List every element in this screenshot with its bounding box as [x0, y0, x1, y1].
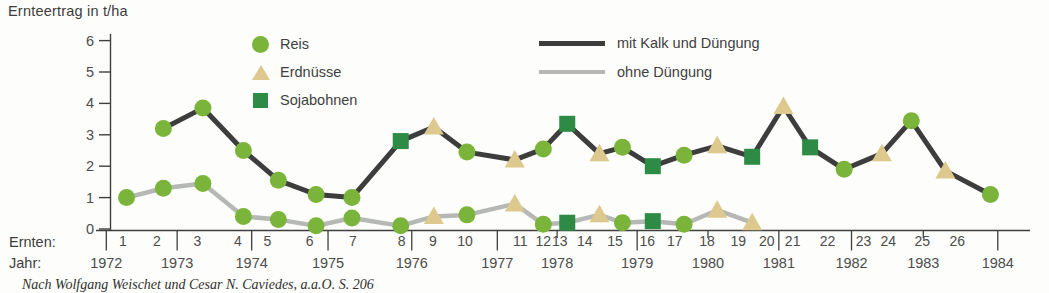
harvest-number: 4 [234, 233, 242, 249]
marker-reis [836, 161, 853, 178]
harvest-number: 9 [429, 233, 437, 249]
gray-line-icon [539, 70, 605, 74]
marker-reis [458, 144, 475, 161]
marker-erdnuesse [589, 205, 609, 223]
marker-reis [308, 186, 325, 203]
marker-erdnuesse [773, 97, 793, 115]
source-citation: Nach Wolfgang Weischet und Cesar N. Cavi… [22, 277, 374, 293]
marker-sojabohnen [559, 116, 575, 132]
marker-reis [982, 186, 999, 203]
year-row-caption: Jahr: [9, 255, 41, 271]
year-label: 1973 [161, 255, 193, 271]
y-tick-label: 1 [86, 190, 94, 206]
marker-reis [270, 172, 287, 189]
marker-reis [118, 189, 135, 206]
marker-reis [614, 214, 631, 231]
soybean-square-icon [252, 93, 269, 108]
marker-erdnuesse [424, 117, 444, 135]
legend-item-erdnuesse: Erdnüsse [252, 63, 357, 81]
marker-reis [194, 100, 211, 117]
harvest-number: 3 [194, 233, 202, 249]
legend-item-mit-kalk: mit Kalk und Düngung [539, 35, 760, 51]
marker-sojabohnen [744, 149, 760, 165]
year-label: 1979 [621, 255, 653, 271]
year-label: 1983 [907, 255, 939, 271]
harvest-number: 6 [306, 233, 314, 249]
year-label: 1978 [541, 255, 573, 271]
legend-label: Reis [280, 36, 309, 52]
harvest-number: 18 [699, 233, 715, 249]
marker-erdnuesse [505, 194, 525, 212]
harvest-number: 25 [915, 233, 931, 249]
year-label: 1984 [982, 255, 1014, 271]
year-label: 1972 [90, 255, 122, 271]
marker-reis [676, 216, 693, 233]
harvest-number: 19 [731, 233, 747, 249]
harvest-number: 2 [153, 233, 161, 249]
series-line-mit-kalk [163, 107, 990, 198]
harvest-number: 16 [639, 233, 655, 249]
harvest-number: 26 [950, 233, 966, 249]
harvest-number: 17 [667, 233, 683, 249]
marker-reis [535, 216, 552, 233]
legend-item-sojabohnen: Sojabohnen [252, 91, 357, 109]
marker-reis [155, 180, 172, 197]
harvest-number: 13 [552, 233, 568, 249]
legend-label: ohne Düngung [617, 64, 712, 80]
marker-erdnuesse [707, 136, 727, 154]
marker-reis [676, 147, 693, 164]
harvest-number: 5 [263, 233, 271, 249]
marker-sojabohnen [645, 213, 661, 229]
year-label: 1981 [763, 255, 795, 271]
y-tick-label: 4 [86, 95, 94, 111]
harvest-number: 10 [457, 233, 473, 249]
harvest-number: 22 [820, 233, 836, 249]
marker-sojabohnen [559, 215, 575, 231]
legend-item-ohne-duengung: ohne Düngung [539, 64, 760, 80]
legend-item-reis: Reis [252, 35, 357, 53]
rice-circle-icon [252, 36, 269, 53]
marker-reis [535, 140, 552, 157]
year-label: 1977 [481, 255, 513, 271]
marker-reis [343, 210, 360, 227]
line-legend: mit Kalk und Düngung ohne Düngung [539, 35, 760, 80]
harvest-number: 14 [577, 233, 593, 249]
harvest-number: 11 [513, 233, 528, 249]
marker-reis [155, 120, 172, 137]
year-label: 1982 [835, 255, 867, 271]
marker-reis [235, 142, 252, 159]
marker-sojabohnen [645, 158, 661, 174]
marker-reis [614, 139, 631, 156]
marker-erdnuesse [707, 200, 727, 218]
peanut-triangle-icon [252, 65, 269, 80]
y-tick-label: 0 [86, 221, 94, 237]
crop-legend: Reis Erdnüsse Sojabohnen [252, 35, 357, 109]
harvest-row-caption: Ernten: [9, 234, 56, 250]
legend-label: Sojabohnen [280, 92, 357, 108]
harvest-number: 1 [119, 233, 127, 249]
legend-label: mit Kalk und Düngung [617, 35, 760, 51]
harvest-number: 24 [881, 233, 897, 249]
marker-reis [270, 211, 287, 228]
harvest-number: 20 [759, 233, 775, 249]
marker-reis [392, 217, 409, 234]
marker-reis [235, 208, 252, 225]
yield-line-chart: 0123456197219731974197519761977197819791… [0, 0, 1049, 293]
y-tick-label: 2 [86, 158, 94, 174]
harvest-number: 7 [349, 233, 357, 249]
year-label: 1975 [312, 255, 344, 271]
year-label: 1980 [692, 255, 724, 271]
marker-reis [343, 189, 360, 206]
harvest-number: 15 [607, 233, 623, 249]
marker-reis [194, 175, 211, 192]
harvest-number: 21 [785, 233, 801, 249]
marker-reis [458, 206, 475, 223]
harvest-number: 23 [856, 233, 872, 249]
harvest-number: 8 [398, 233, 406, 249]
marker-sojabohnen [802, 139, 818, 155]
marker-reis [903, 112, 920, 129]
harvest-number: 12 [536, 233, 552, 249]
dark-line-icon [539, 41, 605, 46]
year-label: 1974 [236, 255, 268, 271]
y-tick-label: 6 [86, 33, 94, 49]
